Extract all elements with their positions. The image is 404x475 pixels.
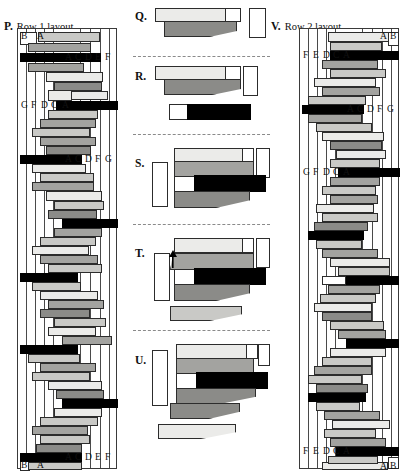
panel-t-block-white-r: [256, 238, 270, 268]
panel-v-bar-32: [314, 303, 372, 312]
panel-v-guide-6: [382, 29, 383, 468]
panel-s-slab-white2: [174, 176, 196, 192]
panel-v-tag-top-right-a: A: [380, 32, 387, 42]
panel-p-bar-2: [28, 43, 91, 52]
panel-v-bar-41: [316, 384, 368, 393]
panel-v-bar-6: [314, 78, 376, 87]
panel-p-bar-15: [20, 155, 82, 164]
panel-p-tag-mid-right-g: G: [105, 155, 112, 165]
panel-v-tag-bot-left-f: F: [303, 447, 308, 457]
panel-v-bar-19: [330, 195, 378, 204]
separator-t-u: [133, 330, 270, 331]
panel-v-tag-top-left-e: E: [313, 51, 319, 61]
panel-v-bar-13: [330, 141, 382, 150]
panel-v-bar-42: [308, 393, 366, 402]
panel-t-slab-dark2: [174, 284, 250, 301]
panel-v-tag-bot-left-e: E: [313, 447, 319, 457]
panel-r-block-white: [243, 66, 258, 96]
panel-v-tag-bot-right-a: A: [380, 462, 387, 472]
panel-u-slab-white2: [176, 373, 198, 390]
panel-v-tag-mid-right-d: D: [367, 105, 374, 115]
panel-s-caption: S.: [135, 153, 144, 171]
panel-v-bar-43: [316, 402, 360, 411]
panel-v-bar-17: [330, 177, 380, 186]
panel-p-bar-24: [40, 237, 96, 246]
panel-p-tag-mid-left-c: C: [51, 101, 57, 111]
panel-r-slab-white: [225, 66, 241, 80]
panel-p-tag-mid-left-a: A: [62, 101, 69, 111]
panel-v-guide-0: [308, 29, 309, 468]
panel-t-diagram: [152, 238, 270, 323]
panel-q-slab-dark: [164, 21, 237, 37]
panel-v-bar-29: [322, 276, 346, 285]
panel-v-tag-mid-left-g: G: [303, 168, 310, 178]
panel-r-slab-white2: [169, 104, 189, 120]
panel-u-block-white-r: [258, 344, 270, 366]
panel-v-bar-20: [316, 204, 374, 213]
panel-p-bar-37: [28, 354, 80, 363]
panel-v-label: V.: [271, 20, 281, 32]
separator-q-r: [133, 56, 270, 57]
panel-p-bar-43: [54, 408, 102, 417]
panel-u-slab-light: [176, 344, 248, 359]
panel-p-bar-46: [40, 435, 90, 444]
panel-s-diagram: [152, 148, 270, 213]
panel-p-bar-26: [40, 255, 98, 264]
panel-p-tag-bot-left-a: A: [37, 461, 44, 471]
panel-v-bar-26: [330, 258, 390, 267]
panel-p-bar-29: [32, 282, 81, 291]
panel-p-bar-16: [32, 164, 86, 173]
panel-p-bar-31: [48, 300, 104, 309]
panel-p-tag-top-left-a: A: [37, 32, 44, 42]
panel-p-tag-bot-right-e: E: [95, 453, 101, 463]
panel-v-tag-mid-right-a: A: [347, 105, 354, 115]
panel-u-diagram: [152, 344, 270, 434]
panel-s-slab-dark2: [174, 191, 250, 208]
panel-u-label: U.: [135, 354, 146, 366]
panel-r-caption: R.: [135, 66, 146, 84]
panel-p-bar-11: [40, 119, 96, 128]
panel-p-bar-41: [56, 390, 104, 399]
panel-p-tag-top-right-c: C: [75, 53, 81, 63]
separator-s-t: [133, 224, 270, 225]
panel-v-bar-31: [320, 294, 376, 303]
panel-q-caption: Q.: [135, 6, 147, 24]
panel-r-diagram: [155, 66, 270, 124]
panel-v-bar-21: [322, 213, 378, 222]
panel-p-bar-0: [38, 32, 100, 42]
panel-p-tag-mid-left-d: D: [41, 101, 48, 111]
panel-r-slab-light: [155, 66, 227, 80]
panel-v-tag-bot-left-a: A: [343, 447, 350, 457]
panel-v-tag-mid-left-a: A: [343, 168, 350, 178]
panel-u-slab-detached: [158, 424, 236, 439]
panel-p-bar-5: [46, 72, 103, 82]
panel-p-tag-top-right-a: A: [65, 53, 72, 63]
figure-root: P. Row 1 layout BAACDEFGFDCAACDFGACDEFBA…: [0, 0, 404, 475]
panel-s-block-white-r: [256, 148, 270, 178]
panel-v-tag-mid-right-f: F: [377, 105, 382, 115]
panel-v-tag-mid-left-d: D: [323, 168, 330, 178]
panel-v-tag-top-left-a: A: [343, 51, 350, 61]
panel-p-bar-45: [32, 426, 88, 435]
panel-q-block-white: [249, 8, 266, 38]
panel-v-bar-9: [302, 105, 364, 114]
panel-p-tag-bot-right-f: F: [105, 453, 110, 463]
separator-r-s: [133, 134, 270, 135]
panel-v-bar-38: [322, 357, 372, 366]
panel-v-bar-3: [330, 51, 399, 60]
panel-v-bar-24: [316, 240, 362, 249]
panel-v-tag-bot-right-b: B: [390, 462, 396, 472]
panel-t-slab-light: [174, 238, 244, 253]
panel-p-tag-mid-right-c: C: [75, 155, 81, 165]
panel-t-label: T.: [135, 247, 145, 259]
panel-v-bar-27: [338, 267, 390, 276]
panel-v-tag-mid-right-g: G: [387, 105, 394, 115]
panel-v-tag-mid-left-c: C: [333, 168, 339, 178]
panel-v-bar-40: [308, 375, 362, 384]
panel-v-tag-bot-left-c: C: [333, 447, 339, 457]
panel-v-tag-bot-left-d: D: [323, 447, 330, 457]
panel-p-bar-23: [54, 228, 102, 237]
panel-p-bar-18: [32, 182, 94, 191]
panel-p-bar-42: [62, 399, 118, 408]
panel-p-bar-36: [20, 345, 78, 354]
